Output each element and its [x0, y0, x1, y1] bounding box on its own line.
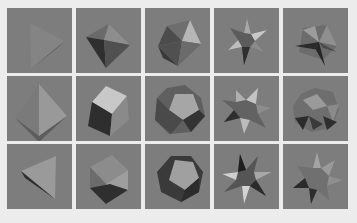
tile-icosahedron — [145, 8, 210, 73]
tile-dodecahedron — [145, 76, 210, 141]
star-polyhedron-render — [283, 8, 348, 73]
star-polyhedron-render — [283, 76, 348, 141]
tile-tetrahedron-edge-on — [7, 8, 72, 73]
tile-great-stellated-dodecahedron — [214, 76, 279, 141]
tetrahedron-render — [7, 144, 72, 209]
tile-octahedron — [76, 8, 141, 73]
tile-cube-bottom — [76, 144, 141, 209]
tile-great-dodecahedron — [283, 8, 348, 73]
tile-cube — [76, 76, 141, 141]
cube-render — [76, 76, 141, 141]
tetrahedron-render — [7, 8, 72, 73]
star-polyhedron-render — [214, 144, 279, 209]
icosahedron-render — [145, 8, 210, 73]
dodecahedron-render — [145, 144, 210, 209]
tetrahedron-render — [7, 76, 72, 141]
polyhedra-image-grid — [7, 8, 348, 209]
tile-tetrahedron — [7, 76, 72, 141]
tile-tetrahedron-side — [7, 144, 72, 209]
octahedron-render — [76, 8, 141, 73]
cube-render — [76, 144, 141, 209]
tile-small-stellated-dodecahedron-2 — [214, 144, 279, 209]
star-polyhedron-render — [214, 76, 279, 141]
tile-great-stellated-dodecahedron-2 — [283, 144, 348, 209]
star-polyhedron-render — [283, 144, 348, 209]
tile-great-icosahedron — [283, 76, 348, 141]
tile-dodecahedron-front — [145, 144, 210, 209]
star-polyhedron-render — [214, 8, 279, 73]
tile-small-stellated-dodecahedron — [214, 8, 279, 73]
dodecahedron-render — [145, 76, 210, 141]
